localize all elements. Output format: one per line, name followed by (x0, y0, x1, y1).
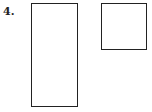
problem-number: 4. (3, 5, 14, 18)
square (101, 3, 147, 50)
tall-rectangle (31, 3, 78, 107)
